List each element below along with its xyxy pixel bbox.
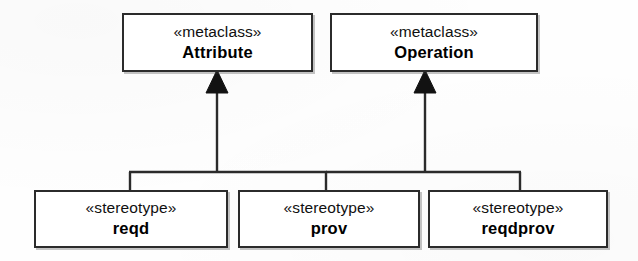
generalization-arrowhead-attribute bbox=[206, 70, 228, 93]
uml-diagram-canvas: «metaclass» Attribute «metaclass» Operat… bbox=[0, 0, 638, 261]
stereotype-name-prov: prov bbox=[311, 219, 348, 238]
metaclass-keyword-attribute: «metaclass» bbox=[173, 23, 261, 41]
stereotype-name-reqdprov: reqdprov bbox=[481, 219, 554, 238]
stereotype-box-prov[interactable]: «stereotype» prov bbox=[238, 190, 420, 248]
stereotype-box-reqd[interactable]: «stereotype» reqd bbox=[34, 190, 228, 248]
generalization-arrowhead-operation bbox=[414, 70, 436, 93]
stereotype-box-reqdprov[interactable]: «stereotype» reqdprov bbox=[428, 190, 608, 248]
metaclass-name-attribute: Attribute bbox=[182, 43, 253, 62]
metaclass-box-operation[interactable]: «metaclass» Operation bbox=[330, 13, 538, 72]
metaclass-keyword-operation: «metaclass» bbox=[390, 23, 478, 41]
metaclass-box-attribute[interactable]: «metaclass» Attribute bbox=[122, 13, 313, 72]
stereotype-keyword-prov: «stereotype» bbox=[284, 199, 375, 217]
stereotype-keyword-reqdprov: «stereotype» bbox=[473, 199, 564, 217]
stereotype-keyword-reqd: «stereotype» bbox=[86, 199, 177, 217]
stereotype-name-reqd: reqd bbox=[113, 219, 150, 238]
metaclass-name-operation: Operation bbox=[394, 43, 474, 62]
